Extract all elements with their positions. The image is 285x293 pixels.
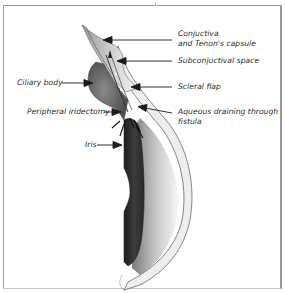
arrow-conjunctiva (103, 37, 172, 44)
label-ciliary-body: Ciliary body (17, 78, 63, 88)
label-scleral-flap: Scleral flap (178, 82, 221, 92)
label-subconjunctival-space: Subconjuctival space (178, 56, 259, 66)
arrow-subconjunctival (117, 58, 172, 65)
label-conjunctiva: Conjuctiva (178, 29, 219, 39)
arrow-scleral-flap (131, 84, 172, 91)
label-aqueous-draining: Aqueous draining through (178, 107, 278, 117)
label-peripheral-iridectomy: Peripheral iridectomy (27, 107, 110, 117)
label-tenon-capsule: and Tenon's capsule (178, 39, 256, 49)
label-fistula: fistula (178, 117, 202, 127)
arrow-iris (97, 142, 122, 149)
label-iris: Iris (85, 140, 97, 150)
